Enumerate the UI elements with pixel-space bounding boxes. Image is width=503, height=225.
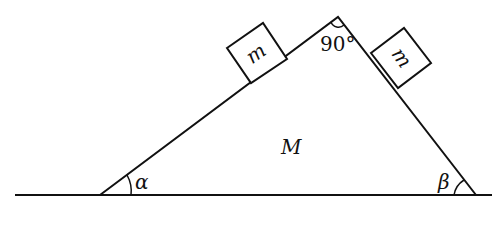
alpha-arc [127,175,131,195]
beta-arc [454,180,464,195]
alpha-label: α [135,170,149,194]
incline-wedge-diagram: m m 90° M α β [0,0,503,225]
beta-label: β [437,170,450,194]
wedge-mass-label: M [280,135,302,159]
apex-angle-label: 90° [320,32,355,56]
wedge-triangle [100,17,476,195]
